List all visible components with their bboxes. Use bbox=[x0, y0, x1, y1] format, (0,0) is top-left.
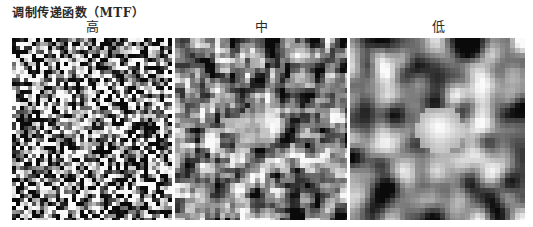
panel-label-medium: 中 bbox=[241, 16, 281, 35]
panel-image-medium-mtf bbox=[175, 38, 347, 220]
panel-image-low-mtf bbox=[350, 38, 525, 220]
panel-label-low: 低 bbox=[418, 16, 458, 35]
panel-image-high-mtf bbox=[12, 38, 172, 220]
panel-label-high: 高 bbox=[72, 16, 112, 35]
